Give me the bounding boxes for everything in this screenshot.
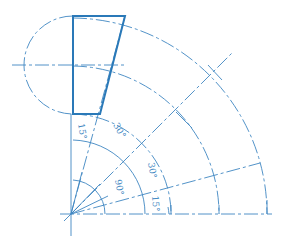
angle-label-upper: 30° — [111, 121, 128, 140]
angle-label-total: 90° — [113, 179, 126, 196]
radial-15 — [71, 163, 260, 214]
angle-label-lower: 30° — [146, 162, 159, 179]
angle-label-bottom: 15° — [150, 195, 161, 212]
elbow-diagram: 15° 30° 30° 15° 90° — [0, 0, 286, 242]
outer-arc — [73, 18, 267, 214]
angle-label-top: 15° — [76, 123, 89, 140]
